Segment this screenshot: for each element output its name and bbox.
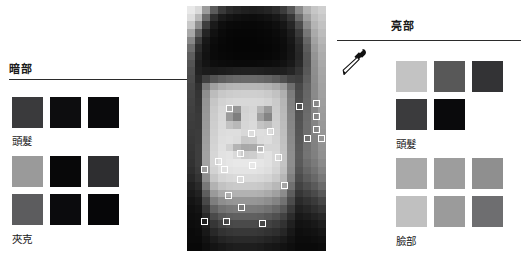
portrait-pixel — [218, 21, 226, 29]
light-face-swatch[interactable] — [472, 196, 503, 227]
portrait-pixel — [195, 14, 203, 22]
portrait-pixel — [295, 167, 303, 175]
portrait-pixel — [218, 44, 226, 52]
portrait-pixel — [195, 136, 203, 144]
color-sample-marker[interactable] — [313, 126, 320, 133]
portrait-pixel — [287, 29, 295, 37]
color-sample-marker[interactable] — [226, 105, 233, 112]
dark-jacket-swatch[interactable] — [88, 156, 119, 187]
portrait-pixel — [241, 83, 249, 91]
light-face-swatch[interactable] — [472, 158, 503, 189]
portrait-pixel — [311, 21, 319, 29]
portrait-pixel — [311, 6, 319, 14]
color-sample-marker[interactable] — [313, 100, 320, 107]
pixelated-portrait-image[interactable] — [187, 6, 326, 251]
light-hair-swatch[interactable] — [472, 61, 503, 92]
portrait-pixel — [210, 29, 218, 37]
dark-hair-swatch[interactable] — [50, 97, 81, 128]
color-sample-marker[interactable] — [237, 176, 244, 183]
portrait-pixel — [241, 52, 249, 60]
color-sample-marker[interactable] — [313, 113, 320, 120]
light-face-swatch[interactable] — [434, 196, 465, 227]
color-sample-marker[interactable] — [296, 103, 303, 110]
portrait-pixel — [303, 182, 311, 190]
portrait-pixel — [233, 83, 241, 91]
dark-jacket-swatch[interactable] — [50, 156, 81, 187]
portrait-pixel — [295, 44, 303, 52]
color-sample-marker[interactable] — [281, 182, 288, 189]
portrait-pixel — [233, 113, 241, 121]
portrait-pixel — [218, 6, 226, 14]
portrait-pixel — [218, 75, 226, 83]
color-sample-marker[interactable] — [215, 158, 222, 165]
portrait-pixel — [226, 14, 234, 22]
color-sample-marker[interactable] — [225, 192, 232, 199]
portrait-pixel — [249, 121, 257, 129]
color-sample-marker[interactable] — [248, 130, 255, 137]
light-hair-swatch[interactable] — [434, 61, 465, 92]
light-face-swatch[interactable] — [434, 158, 465, 189]
portrait-pixel — [226, 75, 234, 83]
color-sample-marker[interactable] — [201, 166, 208, 173]
portrait-pixel — [233, 167, 241, 175]
portrait-pixel — [187, 159, 195, 167]
portrait-pixel — [287, 182, 295, 190]
portrait-pixel — [318, 205, 326, 213]
color-sample-marker[interactable] — [318, 135, 325, 142]
portrait-pixel — [249, 136, 257, 144]
color-sample-marker[interactable] — [221, 166, 228, 173]
portrait-pixel — [195, 98, 203, 106]
color-sample-marker[interactable] — [259, 220, 266, 227]
portrait-pixel — [264, 90, 272, 98]
portrait-pixel — [311, 228, 319, 236]
light-hair-swatch[interactable] — [396, 61, 427, 92]
portrait-pixel — [287, 144, 295, 152]
portrait-pixel — [210, 167, 218, 175]
portrait-pixel — [233, 75, 241, 83]
portrait-pixel — [303, 236, 311, 244]
swatch-group-label-light-hair: 頭髮 — [396, 136, 416, 151]
light-face-swatch[interactable] — [396, 196, 427, 227]
portrait-pixel — [241, 213, 249, 221]
portrait-pixel — [280, 98, 288, 106]
color-sample-marker[interactable] — [275, 154, 282, 161]
portrait-pixel — [257, 44, 265, 52]
portrait-pixel — [195, 205, 203, 213]
portrait-pixel — [210, 220, 218, 228]
portrait-pixel — [233, 243, 241, 251]
portrait-pixel — [241, 90, 249, 98]
color-sample-marker[interactable] — [257, 146, 264, 153]
light-hair-swatch[interactable] — [434, 99, 465, 130]
portrait-pixel — [187, 182, 195, 190]
dark-jacket-swatch[interactable] — [88, 194, 119, 225]
color-sample-marker[interactable] — [304, 135, 311, 142]
color-sample-marker[interactable] — [267, 128, 274, 135]
color-sample-marker[interactable] — [223, 218, 230, 225]
light-face-swatch[interactable] — [396, 158, 427, 189]
color-sample-marker[interactable] — [249, 162, 256, 169]
portrait-pixel — [311, 213, 319, 221]
portrait-pixel — [272, 236, 280, 244]
portrait-pixel — [249, 6, 257, 14]
portrait-pixel — [272, 90, 280, 98]
portrait-pixel — [303, 44, 311, 52]
portrait-pixel — [233, 14, 241, 22]
portrait-pixel — [249, 106, 257, 114]
portrait-pixel — [318, 67, 326, 75]
dark-hair-swatch[interactable] — [88, 97, 119, 128]
portrait-pixel — [226, 90, 234, 98]
dark-jacket-swatch[interactable] — [12, 194, 43, 225]
portrait-pixel — [257, 75, 265, 83]
color-sample-marker[interactable] — [201, 218, 208, 225]
color-sample-marker[interactable] — [237, 150, 244, 157]
dark-hair-swatch[interactable] — [12, 97, 43, 128]
eyedropper-icon[interactable] — [338, 46, 368, 78]
dark-jacket-swatch[interactable] — [12, 156, 43, 187]
dark-jacket-swatch[interactable] — [50, 194, 81, 225]
portrait-pixel — [233, 29, 241, 37]
portrait-pixel — [202, 129, 210, 137]
portrait-pixel — [218, 129, 226, 137]
portrait-pixel — [249, 98, 257, 106]
light-hair-swatch[interactable] — [396, 99, 427, 130]
color-sample-marker[interactable] — [238, 204, 245, 211]
